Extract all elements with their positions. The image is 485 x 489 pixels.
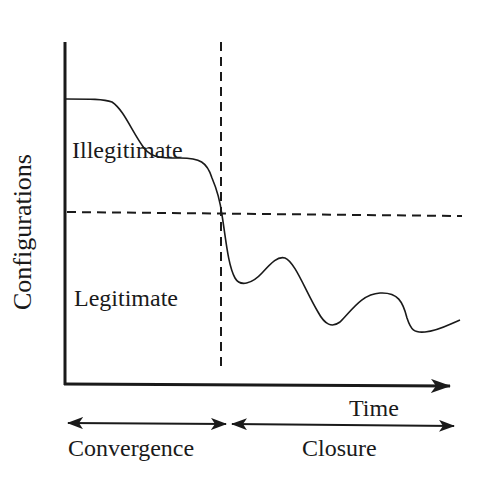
y-axis-label: Configurations	[8, 154, 38, 310]
closure-span-arrow	[232, 424, 454, 426]
convergence-closure-diagram	[0, 0, 485, 489]
x-axis	[64, 384, 450, 386]
legitimacy-boundary-dashed-line	[67, 212, 462, 216]
convergence-span-arrow	[68, 423, 226, 424]
illegitimate-region-label: Illegitimate	[72, 138, 183, 162]
x-axis-label: Time	[349, 396, 399, 420]
convergence-phase-label: Convergence	[68, 436, 194, 460]
legitimate-region-label: Legitimate	[74, 286, 178, 310]
closure-phase-label: Closure	[302, 436, 377, 460]
